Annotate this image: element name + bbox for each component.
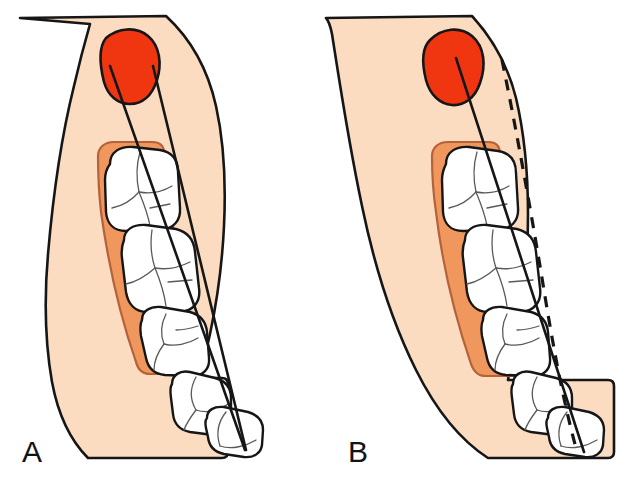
tooth-canine <box>205 407 263 457</box>
panel-b <box>320 0 639 488</box>
lingula-marker <box>423 30 483 105</box>
figure-root: A B <box>0 0 639 488</box>
tooth-second-molar <box>442 147 518 231</box>
tooth-canine <box>546 407 604 457</box>
tooth-first-molar <box>463 225 541 312</box>
tooth-first-molar <box>122 225 200 312</box>
panel-label-b: B <box>348 437 368 467</box>
panel-label-a: A <box>22 437 42 467</box>
panel-a <box>0 0 320 488</box>
